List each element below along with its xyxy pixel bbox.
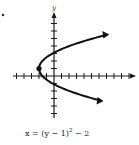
y-axis-label: y bbox=[51, 4, 57, 12]
equation-caption: x = (y − 1)2 − 2 bbox=[25, 127, 89, 138]
y-axis-arrow bbox=[52, 12, 57, 18]
axis-ticks bbox=[17, 24, 130, 114]
parabola-graph: x y x = (y − 1)2 − 2 bbox=[0, 0, 139, 145]
caption-lhs: x = (y − 1) bbox=[25, 129, 69, 138]
parabola-curve bbox=[39, 36, 104, 101]
caption-rhs: − 2 bbox=[72, 129, 89, 138]
vertex-point bbox=[36, 66, 41, 71]
x-axis-arrow bbox=[130, 74, 136, 79]
curve-arrow-lower bbox=[97, 97, 104, 105]
item-marker bbox=[2, 14, 4, 16]
curve-arrow-upper bbox=[102, 31, 109, 39]
